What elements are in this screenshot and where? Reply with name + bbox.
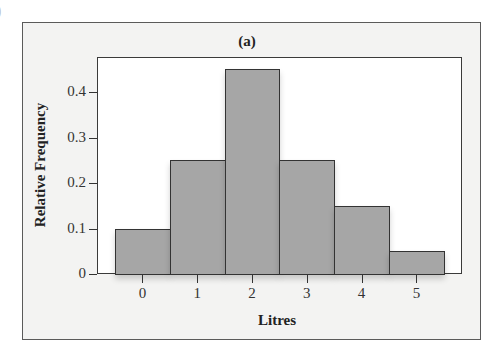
y-tick-label: 0.3	[46, 129, 86, 146]
y-tick-label: 0	[46, 265, 86, 282]
y-tick	[89, 183, 97, 184]
x-axis-title: Litres	[0, 312, 494, 329]
x-tick	[197, 275, 198, 283]
x-tick	[142, 275, 143, 283]
x-tick	[362, 275, 363, 283]
histogram-bar	[334, 206, 390, 275]
y-tick	[89, 92, 97, 93]
x-tick-label: 2	[242, 285, 262, 302]
histogram-bar	[225, 69, 281, 275]
x-tick-label: 1	[187, 285, 207, 302]
x-tick-label: 0	[132, 285, 152, 302]
y-tick	[89, 229, 97, 230]
cropped-edge-mark: )	[0, 2, 1, 20]
histogram-bar	[115, 229, 171, 276]
histogram-bar	[279, 160, 335, 275]
y-tick	[89, 274, 97, 275]
histogram-bar	[389, 251, 445, 275]
y-tick-label: 0.2	[46, 174, 86, 191]
y-tick-label: 0.4	[46, 83, 86, 100]
y-tick-label: 0.1	[46, 220, 86, 237]
x-tick	[416, 275, 417, 283]
x-tick-label: 3	[297, 285, 317, 302]
x-tick	[252, 275, 253, 283]
y-tick	[89, 138, 97, 139]
chart-title: (a)	[0, 33, 494, 50]
histogram-bar	[170, 160, 226, 275]
y-axis-title: Relative Frequency	[32, 103, 49, 227]
x-tick-label: 4	[352, 285, 372, 302]
x-tick	[307, 275, 308, 283]
x-tick-label: 5	[406, 285, 426, 302]
